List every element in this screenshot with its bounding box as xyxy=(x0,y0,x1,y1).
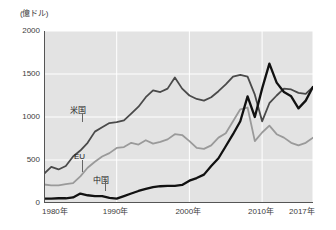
x-tick-label: 2000年 xyxy=(175,205,201,216)
y-tick-label: 500 xyxy=(6,155,40,164)
y-axis-unit-label: (億ドル) xyxy=(20,7,48,18)
plot-area xyxy=(44,31,313,203)
series-label-leader-line xyxy=(82,160,83,172)
x-tick-label: 1980年 xyxy=(42,205,68,216)
x-axis-line xyxy=(44,202,313,203)
chart-container: (億ドル) 0500100015002000 1980年1990年2000年20… xyxy=(0,0,336,230)
y-tick-label: 1500 xyxy=(6,69,40,78)
y-tick-label: 1000 xyxy=(6,112,40,121)
series-label-中国: 中国 xyxy=(93,174,109,185)
series-label-米国: 米国 xyxy=(70,104,86,115)
series-label-EU: EU xyxy=(74,152,85,161)
series-lines xyxy=(44,64,313,199)
y-tick-label: 0 xyxy=(6,198,40,207)
x-tick-label: 2017年 xyxy=(289,205,315,216)
series-label-leader-line xyxy=(105,182,106,191)
plot-svg xyxy=(44,31,313,203)
series-label-leader-line xyxy=(82,113,83,122)
x-tick-label: 1990年 xyxy=(103,205,129,216)
x-tick-label: 2010年 xyxy=(248,205,274,216)
gridlines xyxy=(44,31,313,203)
y-tick-label: 2000 xyxy=(6,26,40,35)
y-axis-line xyxy=(44,31,45,203)
